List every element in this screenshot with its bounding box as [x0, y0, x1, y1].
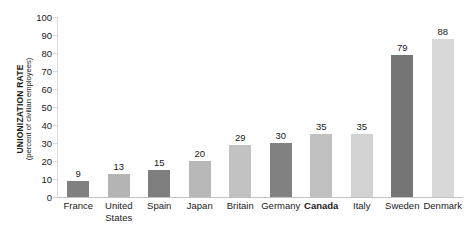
bar	[391, 55, 413, 197]
y-axis-tick-label: 20	[22, 156, 52, 167]
bar-value-label: 9	[76, 168, 81, 179]
bar-value-label: 79	[397, 42, 408, 53]
y-axis-tick-label: 10	[22, 174, 52, 185]
bar-group: 35	[351, 17, 373, 197]
y-axis-tick-label: 30	[22, 138, 52, 149]
bar	[229, 145, 251, 197]
plot-area: 9131520293035357988	[58, 17, 463, 197]
bar-group: 79	[391, 17, 413, 197]
y-axis-tick-label: 0	[22, 192, 52, 203]
y-axis-tick-mark	[53, 71, 57, 72]
bar-group: 20	[189, 17, 211, 197]
bar-group: 88	[432, 17, 454, 197]
bar-group: 15	[148, 17, 170, 197]
y-axis-tick-label: 40	[22, 120, 52, 131]
bar	[432, 39, 454, 197]
bar-group: 9	[67, 17, 89, 197]
y-axis-tick-mark	[53, 17, 57, 18]
x-axis-line	[57, 197, 463, 198]
y-axis-tick-mark	[53, 125, 57, 126]
y-axis-tick-label: 70	[22, 66, 52, 77]
bar-chart: UNIONIZATION RATE (percent of civilian e…	[0, 0, 471, 241]
bar-value-label: 15	[154, 157, 165, 168]
y-axis-tick-mark	[53, 107, 57, 108]
bar-value-label: 35	[356, 121, 367, 132]
bar-value-label: 20	[194, 148, 205, 159]
y-axis-tick-mark	[53, 161, 57, 162]
y-axis-tick-labels: 1009080706050403020100	[22, 0, 52, 241]
bar-value-label: 29	[235, 132, 246, 143]
bar-value-label: 88	[437, 26, 448, 37]
y-axis-tick-label: 90	[22, 30, 52, 41]
y-axis-tick-label: 60	[22, 84, 52, 95]
bar-group: 30	[270, 17, 292, 197]
x-axis-category-labels: FranceUnited StatesSpainJapanBritainGerm…	[58, 200, 463, 241]
bar	[270, 143, 292, 197]
y-axis-tick-mark	[53, 53, 57, 54]
bar-group: 13	[108, 17, 130, 197]
y-axis-tick-mark	[53, 179, 57, 180]
y-axis-tick-mark	[53, 143, 57, 144]
x-axis-category-label: Denmark	[420, 200, 467, 212]
bar	[148, 170, 170, 197]
bar-group: 29	[229, 17, 251, 197]
bar	[351, 134, 373, 197]
y-axis-tick-mark	[53, 35, 57, 36]
y-axis-tick-label: 50	[22, 102, 52, 113]
bar-group: 35	[310, 17, 332, 197]
bar	[67, 181, 89, 197]
y-axis-tick-mark	[53, 89, 57, 90]
bar	[189, 161, 211, 197]
y-axis-tick-mark	[53, 197, 57, 198]
y-axis-tick-label: 100	[22, 12, 52, 23]
bar-value-label: 35	[316, 121, 327, 132]
bar	[310, 134, 332, 197]
y-axis-tick-label: 80	[22, 48, 52, 59]
bar	[108, 174, 130, 197]
bar-value-label: 30	[275, 130, 286, 141]
bar-value-label: 13	[113, 161, 124, 172]
